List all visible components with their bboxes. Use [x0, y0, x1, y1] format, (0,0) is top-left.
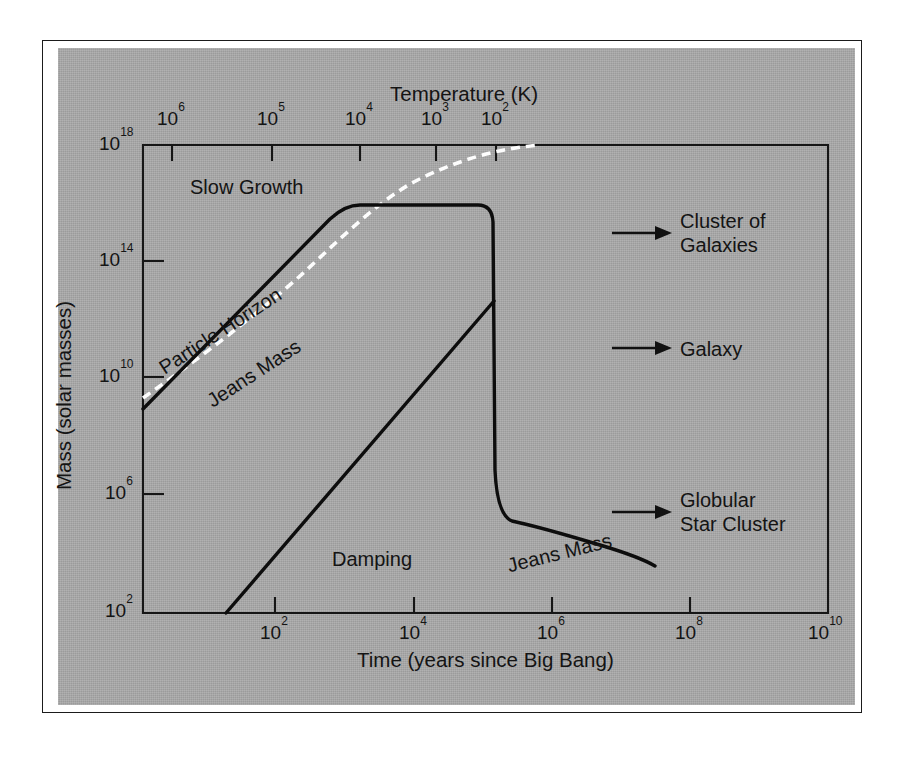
callout-cluster-line-2: Galaxies	[680, 233, 766, 257]
x-tick-mantissa-3: 10	[537, 622, 558, 643]
y-tick-mantissa-2: 10	[99, 249, 120, 270]
x-tick-exponent-1: 2	[281, 614, 288, 628]
top-tick-exponent-2: 5	[278, 100, 285, 114]
callout-globular-line-2: Star Cluster	[680, 512, 786, 536]
y-tick-exponent-3: 10	[120, 357, 133, 371]
y-tick-label-2: 1014	[99, 249, 134, 271]
top-tick-label-3: 104	[345, 108, 373, 130]
callout-globular-star-cluster: Globular Star Cluster	[680, 488, 786, 537]
y-tick-mantissa-3: 10	[99, 365, 120, 386]
top-tick-exponent-5: 2	[502, 100, 509, 114]
top-tick-label-1: 106	[157, 108, 185, 130]
annotation-damping: Damping	[332, 548, 412, 571]
callout-galaxy: Galaxy	[680, 337, 742, 361]
callout-globular-line-1: Globular	[680, 488, 786, 512]
top-tick-exponent-3: 4	[366, 100, 373, 114]
top-tick-label-5: 102	[481, 108, 509, 130]
y-tick-exponent-5: 2	[126, 592, 133, 606]
top-axis-title: Temperature (K)	[390, 82, 538, 106]
x-tick-label-3: 106	[537, 622, 565, 644]
x-tick-exponent-2: 4	[420, 614, 427, 628]
x-tick-label-2: 104	[399, 622, 427, 644]
top-tick-exponent-1: 6	[178, 100, 185, 114]
top-tick-mantissa-4: 10	[421, 108, 442, 129]
x-tick-exponent-5: 10	[829, 614, 842, 628]
figure-panel	[58, 48, 855, 705]
x-tick-label-5: 1010	[808, 622, 843, 644]
top-tick-mantissa-1: 10	[157, 108, 178, 129]
y-tick-mantissa-5: 10	[105, 600, 126, 621]
y-tick-exponent-1: 18	[120, 125, 133, 139]
top-tick-mantissa-3: 10	[345, 108, 366, 129]
x-tick-mantissa-2: 10	[399, 622, 420, 643]
top-tick-exponent-4: 3	[442, 100, 449, 114]
callout-cluster-line-1: Cluster of	[680, 209, 766, 233]
x-axis-title: Time (years since Big Bang)	[357, 648, 614, 672]
top-tick-label-4: 103	[421, 108, 449, 130]
x-tick-exponent-3: 6	[558, 614, 565, 628]
x-tick-label-4: 108	[675, 622, 703, 644]
callout-galaxy-line-1: Galaxy	[680, 337, 742, 361]
top-tick-mantissa-5: 10	[481, 108, 502, 129]
annotation-slow-growth: Slow Growth	[190, 176, 303, 199]
y-axis-title: Mass (solar masses)	[52, 301, 76, 490]
x-tick-mantissa-1: 10	[260, 622, 281, 643]
y-tick-exponent-2: 14	[120, 241, 133, 255]
x-tick-label-1: 102	[260, 622, 288, 644]
y-tick-mantissa-1: 10	[99, 133, 120, 154]
y-tick-label-3: 1010	[99, 365, 134, 387]
y-tick-label-4: 106	[105, 482, 133, 504]
y-tick-mantissa-4: 10	[105, 482, 126, 503]
x-tick-mantissa-5: 10	[808, 622, 829, 643]
y-tick-exponent-4: 6	[126, 474, 133, 488]
y-tick-label-1: 1018	[99, 133, 134, 155]
y-tick-label-5: 102	[105, 600, 133, 622]
x-tick-mantissa-4: 10	[675, 622, 696, 643]
x-tick-exponent-4: 8	[696, 614, 703, 628]
top-tick-label-2: 105	[257, 108, 285, 130]
callout-cluster-of-galaxies: Cluster of Galaxies	[680, 209, 766, 258]
page-canvas: Temperature (K) 106 105 104 103 102 1018…	[0, 0, 897, 762]
top-tick-mantissa-2: 10	[257, 108, 278, 129]
